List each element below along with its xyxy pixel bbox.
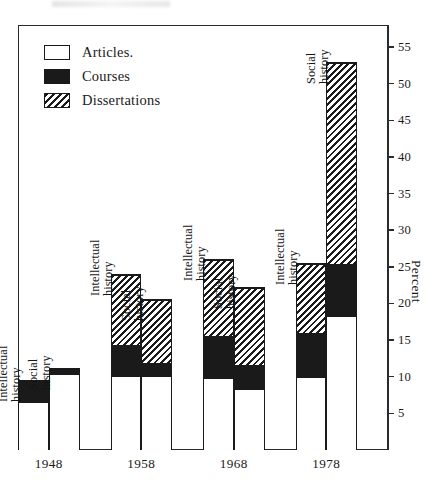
bar-caption-line: Social (305, 49, 318, 84)
y-tick-label: 30 (398, 224, 411, 237)
bar-caption-1978-intellectual-history: Intellectualhistory (274, 229, 299, 286)
x-axis-year-label-1968: 1968 (220, 456, 248, 472)
bar-chart-figure: Articles. Courses Dissertations 51015202… (0, 0, 444, 483)
bar-caption-1948-social-history: Socialhistory (27, 355, 52, 390)
bar-1948-intellectual-history (18, 380, 49, 450)
bar-caption-line: Intellectual (274, 229, 287, 286)
y-tick (388, 303, 394, 305)
bar-segment-courses (327, 264, 356, 317)
bar-caption-line: history (317, 49, 330, 84)
bar-caption-1968-intellectual-history: Intellectualhistory (181, 225, 206, 282)
bar-caption-line: history (132, 286, 145, 321)
bar-1978-social-history (326, 62, 357, 450)
bar-segment-dissertations (297, 264, 326, 333)
bar-segment-courses (112, 345, 141, 377)
y-tick (388, 266, 394, 268)
bar-caption-line: history (101, 240, 114, 297)
bar-caption-1948-intellectual-history: Intellectualhistory (0, 346, 22, 403)
axis-title-percent: Percent (408, 260, 424, 303)
x-axis-year-label-1958: 1958 (127, 456, 155, 472)
bar-caption-line: Intellectual (0, 346, 9, 403)
y-tick-label: 50 (398, 77, 411, 90)
bar-1948-social-history (49, 368, 80, 450)
bar-segment-dissertations (235, 288, 264, 365)
bar-caption-line: history (194, 225, 207, 282)
y-tick (388, 83, 394, 85)
y-tick (388, 413, 394, 415)
bar-segment-courses (204, 336, 233, 378)
bar-caption-1978-social-history: Socialhistory (305, 49, 330, 84)
y-tick-label: 55 (398, 41, 411, 54)
bar-caption-1968-social-history: Socialhistory (212, 274, 237, 309)
y-tick-label: 10 (398, 370, 411, 383)
bar-caption-line: Social (120, 286, 133, 321)
bar-segment-articles (327, 317, 356, 450)
y-tick (388, 193, 394, 195)
y-tick-label: 40 (398, 151, 411, 164)
bar-segment-articles (297, 378, 326, 450)
bar-segment-articles (204, 379, 233, 450)
y-tick-label: 45 (398, 114, 411, 127)
bar-segment-courses (297, 333, 326, 377)
y-tick (388, 229, 394, 231)
bar-caption-line: history (225, 274, 238, 309)
bar-caption-line: Intellectual (181, 225, 194, 282)
x-axis-year-label-1978: 1978 (312, 456, 340, 472)
bar-1978-intellectual-history (296, 263, 327, 450)
bar-caption-line: Social (27, 355, 40, 390)
bar-segment-articles (19, 403, 48, 450)
bar-segment-courses (142, 363, 171, 378)
bar-caption-line: history (40, 355, 53, 390)
y-tick (388, 120, 394, 122)
bar-segment-dissertations (327, 63, 356, 264)
y-tick (388, 156, 394, 158)
y-tick-label: 35 (398, 187, 411, 200)
y-tick-label: 5 (398, 407, 405, 420)
y-tick (388, 376, 394, 378)
bar-segment-articles (50, 375, 79, 450)
bar-caption-line: Intellectual (89, 240, 102, 297)
bar-segment-articles (235, 390, 264, 450)
bar-segment-courses (235, 365, 264, 390)
bar-caption-line: history (286, 229, 299, 286)
bar-1968-social-history (234, 287, 265, 450)
bar-caption-1958-intellectual-history: Intellectualhistory (89, 240, 114, 297)
y-tick (388, 339, 394, 341)
x-axis-year-label-1948: 1948 (35, 456, 63, 472)
y-tick-label: 15 (398, 334, 411, 347)
bar-segment-dissertations (142, 300, 171, 363)
bar-caption-line: history (9, 346, 22, 403)
bar-caption-1958-social-history: Socialhistory (120, 286, 145, 321)
y-tick (388, 46, 394, 48)
bar-segment-articles (112, 377, 141, 450)
bar-1958-social-history (141, 299, 172, 450)
bar-segment-articles (142, 377, 171, 450)
bar-caption-line: Social (212, 274, 225, 309)
